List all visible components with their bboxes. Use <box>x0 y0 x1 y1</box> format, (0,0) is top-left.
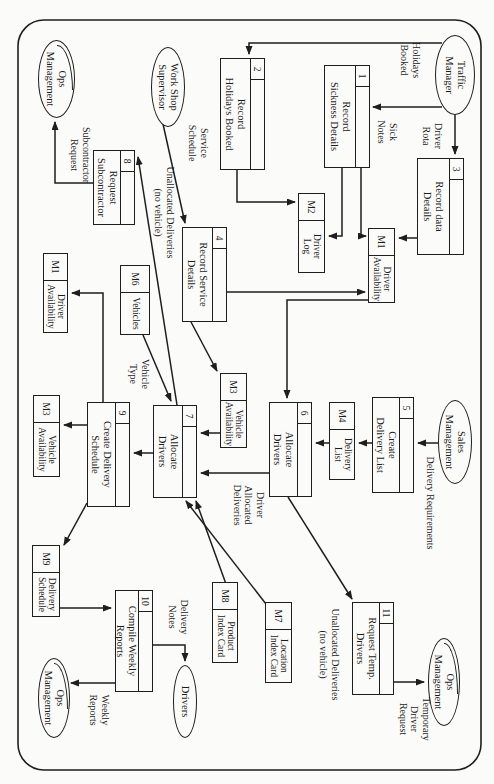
store-name: Vehicle Availability <box>34 423 59 476</box>
store-name: Product Index Card <box>213 610 237 662</box>
process-number: 3 <box>450 159 463 180</box>
process-number: 10 <box>139 591 152 612</box>
flow-label-drivalloc: Driver Allocated Deliveries <box>232 477 267 533</box>
process-title: Allocate Drivers <box>154 406 182 497</box>
process-box-10: 10Compile Weekly Reports <box>115 590 153 692</box>
entity-name: Ops Management <box>42 671 65 726</box>
flow-label-tempreq: Temporary Driver Request <box>398 690 433 748</box>
process-box-6: 6Allocate Drivers <box>269 402 312 497</box>
process-title: Request Temp. Drivers <box>353 603 379 694</box>
flow-label-holidays: Holidays Booked <box>399 28 422 92</box>
flow-label-service: Service Schedule <box>187 112 210 174</box>
scanned-page: 1Record Sickness Details2Record Holidays… <box>0 0 494 784</box>
data-store-m2: M2Driver Log <box>298 193 325 273</box>
process-box-3: 3Record data Details <box>417 158 464 255</box>
process-title: Record Sickness Details <box>325 66 355 167</box>
external-entity-wss: Work Shop Supervisor <box>151 47 185 127</box>
data-flow-arrow-6 <box>361 168 366 236</box>
process-id-strip: 1 <box>355 66 369 167</box>
external-entity-traffic: Traffic Manager <box>435 35 475 115</box>
data-store-m7: M7Location Index Card <box>265 602 292 683</box>
data-store-m8: M8Product Index Card <box>212 582 238 663</box>
process-box-9: 9Create Delivery Schedule <box>87 402 130 507</box>
process-id-strip: 2 <box>250 59 264 169</box>
store-name: Delivery Schedule <box>33 573 59 616</box>
process-number: 2 <box>251 59 264 80</box>
process-title: Request Subcontractor <box>94 151 120 224</box>
data-flow-arrow-21 <box>196 501 226 584</box>
data-store-m3a: M3Vehicle Availability <box>220 373 247 448</box>
store-id: M6 <box>121 266 149 293</box>
process-id-strip: 4 <box>212 228 226 321</box>
store-id: M8 <box>213 583 237 610</box>
process-id-strip: 11 <box>379 603 393 694</box>
store-id: M4 <box>330 403 354 430</box>
data-store-m1: M1Driver Availability <box>368 228 395 303</box>
store-id: M9 <box>33 546 59 573</box>
process-number: 11 <box>380 603 393 624</box>
data-flow-arrow-7 <box>237 170 295 202</box>
store-id: M2 <box>299 194 324 221</box>
store-name: Delivery List <box>330 430 354 479</box>
flow-label-subreq: Subcontractor Request <box>69 118 92 192</box>
process-id-strip: 7 <box>182 406 196 497</box>
store-id: M3 <box>221 374 246 401</box>
entity-name: Ops Management <box>45 52 68 107</box>
external-entity-ops1: Ops Management <box>38 40 75 118</box>
flow-label-unalloc1: Unallocated Deliveries (no vehicle) <box>153 160 176 265</box>
data-flow-arrow-25 <box>64 503 87 545</box>
process-title: Record Service Details <box>183 228 212 321</box>
external-entity-ops2: Ops Management <box>38 658 70 738</box>
process-id-strip: 5 <box>399 398 413 492</box>
process-box-4: 4Record Service Details <box>182 227 227 322</box>
entity-name: Drivers <box>179 686 191 718</box>
process-title: Record data Details <box>418 159 449 254</box>
store-name: Location Index Card <box>266 630 291 682</box>
process-title: Compile Weekly Reports <box>115 591 139 691</box>
store-name: Vehicles <box>121 293 149 334</box>
process-number: 9 <box>116 403 129 424</box>
process-box-5: 5Create Delivery List <box>372 397 414 493</box>
data-flow-arrow-19 <box>191 322 217 371</box>
data-flow-arrow-24 <box>72 293 103 402</box>
process-number: 7 <box>183 406 196 427</box>
data-store-m9: M9Delivery Schedule <box>32 545 60 617</box>
entity-name: Sales Management <box>443 415 466 470</box>
process-title: Create Delivery Schedule <box>88 403 115 506</box>
entity-name: Ops Management <box>432 655 455 710</box>
store-id: M7 <box>266 603 291 630</box>
process-id-strip: 9 <box>115 403 129 506</box>
process-box-7: 7Allocate Drivers <box>153 405 197 498</box>
data-store-m4: M4Delivery List <box>329 402 355 480</box>
data-store-m3b: M3Vehicle Availability <box>33 395 60 477</box>
process-number: 5 <box>400 398 413 419</box>
process-box-1: 1Record Sickness Details <box>324 65 370 168</box>
flow-label-delnotes: Delivery Notes <box>167 594 190 640</box>
store-name: Driver Availability <box>44 281 67 332</box>
process-box-11: 11Request Temp. Drivers <box>352 602 394 695</box>
process-title: Allocate Drivers <box>270 403 297 496</box>
store-name: Driver Log <box>299 221 324 272</box>
process-box-2: 2Record Holidays Booked <box>220 58 265 170</box>
external-entity-ops3: Ops Management <box>428 638 460 726</box>
flow-label-vtype: Vehicle Type <box>128 350 151 398</box>
flow-label-sick: Sick Notes <box>376 112 399 152</box>
data-flow-arrow-9 <box>287 300 368 398</box>
data-flow-arrow-14 <box>288 497 352 599</box>
store-id: M3 <box>34 396 59 423</box>
external-entity-sales: Sales Management <box>438 400 472 484</box>
flow-label-delreq: Delivery Requirements <box>425 448 437 558</box>
process-title: Create Delivery List <box>373 398 399 492</box>
process-id-strip: 3 <box>449 159 463 254</box>
entity-name: Traffic Manager <box>443 56 466 93</box>
data-store-m6: M6Vehicles <box>120 265 150 335</box>
process-number: 4 <box>213 228 226 249</box>
dfd-diagram: 1Record Sickness Details2Record Holidays… <box>0 0 494 784</box>
process-number: 1 <box>356 66 369 87</box>
process-id-strip: 10 <box>138 591 152 691</box>
flow-label-weekly: Weekly Reports <box>88 686 111 734</box>
process-id-strip: 6 <box>297 403 311 496</box>
entity-name: Work Shop Supervisor <box>156 63 179 110</box>
store-id: M1 <box>44 254 67 281</box>
external-entity-drivers: Drivers <box>173 665 197 738</box>
